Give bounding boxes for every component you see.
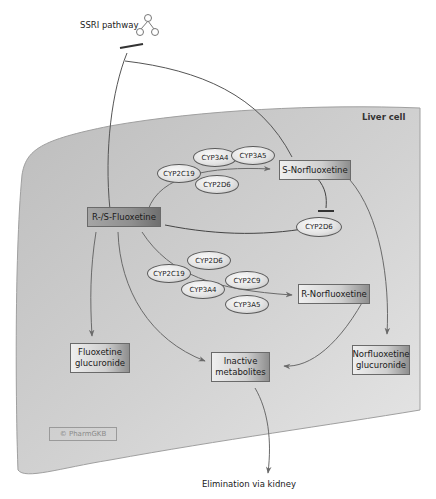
enzyme-cyp2c9-r[interactable]: CYP2C9 [225,271,269,290]
diagram-canvas [0,0,436,499]
node-r-norfluoxetine[interactable]: R-Norfluoxetine [298,284,370,304]
ssri-pathway-link[interactable]: SSRI pathway [80,20,138,30]
enzyme-cyp3a5-r[interactable]: CYP3A5 [225,295,269,314]
enzyme-cyp3a4-s[interactable]: CYP3A4 [193,148,237,167]
watermark: © PharmGKB [49,427,117,441]
node-norfluoxetine-glucuronide[interactable]: Norfluoxetine glucuronide [352,345,410,375]
liver-cell-label: Liver cell [362,112,405,122]
enzyme-cyp3a5-s[interactable]: CYP3A5 [231,146,275,165]
node-s-norfluoxetine[interactable]: S-Norfluoxetine [279,160,351,180]
elimination-label: Elimination via kidney [202,479,296,489]
enzyme-cyp2d6-r[interactable]: CYP2D6 [187,251,231,270]
enzyme-cyp2d6-inhibited[interactable]: CYP2D6 [296,217,342,237]
node-fluoxetine-glucuronide[interactable]: Fluoxetine glucuronide [70,343,130,373]
enzyme-cyp3a4-r[interactable]: CYP3A4 [181,280,225,299]
node-rs-fluoxetine[interactable]: R-/S-Fluoxetine [87,207,161,227]
node-inactive-metabolites[interactable]: Inactive metabolites [211,352,270,382]
pathway-tree-icon [137,15,159,36]
enzyme-cyp2d6-s[interactable]: CYP2D6 [195,175,239,194]
enzyme-cyp2c19-s[interactable]: CYP2C19 [157,164,201,183]
enzyme-cyp2c19-r[interactable]: CYP2C19 [147,264,191,283]
